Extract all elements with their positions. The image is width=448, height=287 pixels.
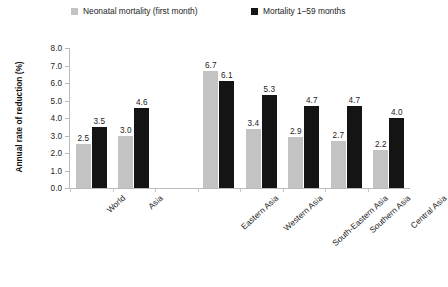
bar-value-label: 4.7 bbox=[349, 96, 360, 105]
bar-mortality bbox=[304, 106, 319, 188]
x-category-label: Eastern Asia bbox=[239, 193, 280, 232]
x-tick bbox=[198, 188, 199, 192]
y-tick-label: 0.0 bbox=[51, 184, 62, 193]
bar-neonatal bbox=[331, 141, 346, 188]
bar-mortality bbox=[92, 127, 107, 188]
bar-mortality bbox=[389, 118, 404, 188]
bar-value-label: 4.7 bbox=[306, 96, 317, 105]
legend-swatch-mortality bbox=[251, 8, 258, 15]
y-tick-label: 8.0 bbox=[51, 44, 62, 53]
x-tick bbox=[240, 188, 241, 192]
legend-label-mortality: Mortality 1–59 months bbox=[263, 6, 345, 16]
plot-area: 0.01.02.03.04.05.06.07.08.0 2.53.53.04.6… bbox=[70, 48, 410, 188]
y-tick-label: 6.0 bbox=[51, 79, 62, 88]
y-tick-label: 2.0 bbox=[51, 149, 62, 158]
y-tick bbox=[65, 153, 69, 154]
bar-neonatal bbox=[288, 137, 303, 188]
bar-value-label: 2.7 bbox=[333, 131, 344, 140]
y-axis-title: Annual rate of reduction (%) bbox=[14, 42, 24, 192]
x-tick bbox=[155, 188, 156, 192]
bar-neonatal bbox=[373, 150, 388, 189]
chart-legend: Neonatal mortality (first month) Mortali… bbox=[0, 6, 417, 24]
bar-value-label: 6.1 bbox=[221, 71, 232, 80]
x-tick bbox=[113, 188, 114, 192]
bar-group: 2.24.0 bbox=[373, 48, 404, 188]
x-tick bbox=[283, 188, 284, 192]
y-tick bbox=[65, 48, 69, 49]
y-axis-line bbox=[69, 48, 70, 189]
bar-group: 6.76.1 bbox=[203, 48, 234, 188]
legend-item-mortality: Mortality 1–59 months bbox=[251, 6, 345, 16]
bar-value-label: 3.0 bbox=[120, 126, 131, 135]
x-tick bbox=[70, 188, 71, 192]
bar-neonatal bbox=[203, 71, 218, 188]
bar-group: 2.74.7 bbox=[331, 48, 362, 188]
x-category-label: Asia bbox=[146, 193, 165, 211]
bar-mortality bbox=[134, 108, 149, 189]
bar-value-label: 4.6 bbox=[136, 98, 147, 107]
legend-swatch-neonatal bbox=[71, 8, 78, 15]
bar-neonatal bbox=[246, 129, 261, 189]
bar-value-label: 2.9 bbox=[290, 127, 301, 136]
x-category-label: Western Asia bbox=[282, 193, 325, 233]
y-tick bbox=[65, 118, 69, 119]
bar-neonatal bbox=[76, 144, 91, 188]
y-tick-label: 1.0 bbox=[51, 166, 62, 175]
bar-value-label: 4.0 bbox=[391, 108, 402, 117]
y-tick-label: 4.0 bbox=[51, 114, 62, 123]
y-tick bbox=[65, 171, 69, 172]
y-tick bbox=[65, 83, 69, 84]
x-tick bbox=[325, 188, 326, 192]
y-tick-label: 7.0 bbox=[51, 61, 62, 70]
y-tick bbox=[65, 66, 69, 67]
bar-value-label: 3.5 bbox=[94, 117, 105, 126]
y-tick bbox=[65, 136, 69, 137]
legend-item-neonatal: Neonatal mortality (first month) bbox=[71, 6, 198, 16]
bar-mortality bbox=[262, 95, 277, 188]
bar-value-label: 2.5 bbox=[78, 134, 89, 143]
bar-value-label: 2.2 bbox=[375, 140, 386, 149]
bar-value-label: 5.3 bbox=[264, 85, 275, 94]
legend-label-neonatal: Neonatal mortality (first month) bbox=[83, 6, 198, 16]
bar-value-label: 6.7 bbox=[205, 61, 216, 70]
bar-value-label: 3.4 bbox=[248, 119, 259, 128]
bar-group: 3.45.3 bbox=[246, 48, 277, 188]
bar-mortality bbox=[347, 106, 362, 188]
bar-group: 3.04.6 bbox=[118, 48, 149, 188]
x-category-label: Central Asia bbox=[408, 193, 448, 230]
bar-group: 2.53.5 bbox=[76, 48, 107, 188]
y-tick bbox=[65, 188, 69, 189]
y-tick-label: 3.0 bbox=[51, 131, 62, 140]
bar-group: 2.94.7 bbox=[288, 48, 319, 188]
bar-mortality bbox=[219, 81, 234, 188]
x-category-label: World bbox=[105, 193, 128, 215]
x-tick bbox=[368, 188, 369, 192]
y-tick-label: 5.0 bbox=[51, 96, 62, 105]
y-tick bbox=[65, 101, 69, 102]
bar-neonatal bbox=[118, 136, 133, 189]
